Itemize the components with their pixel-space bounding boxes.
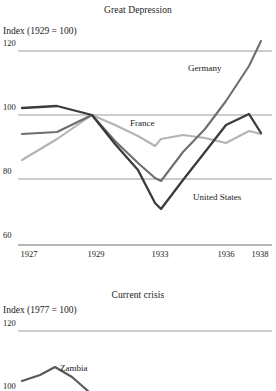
chart-current-crisis: Current crisis Index (1977 = 100) 120 10…	[0, 285, 276, 391]
series-label-france: France	[130, 118, 155, 128]
x-tick-1938: 1938	[243, 249, 276, 259]
x-tick-1929: 1929	[79, 249, 113, 259]
x-tick-1936: 1936	[209, 249, 243, 259]
x-tick-1933: 1933	[143, 249, 177, 259]
series-label-zambia: Zambia	[60, 363, 88, 373]
x-tick-1927: 1927	[12, 249, 46, 259]
series-line-germany	[22, 41, 261, 181]
plot-area-great-depression	[0, 0, 276, 285]
series-label-germany: Germany	[188, 63, 222, 73]
chart-great-depression: Great Depression Index (1929 = 100) 120 …	[0, 0, 276, 285]
series-label-united-states: United States	[193, 192, 241, 202]
plot-area-current-crisis	[0, 285, 276, 391]
